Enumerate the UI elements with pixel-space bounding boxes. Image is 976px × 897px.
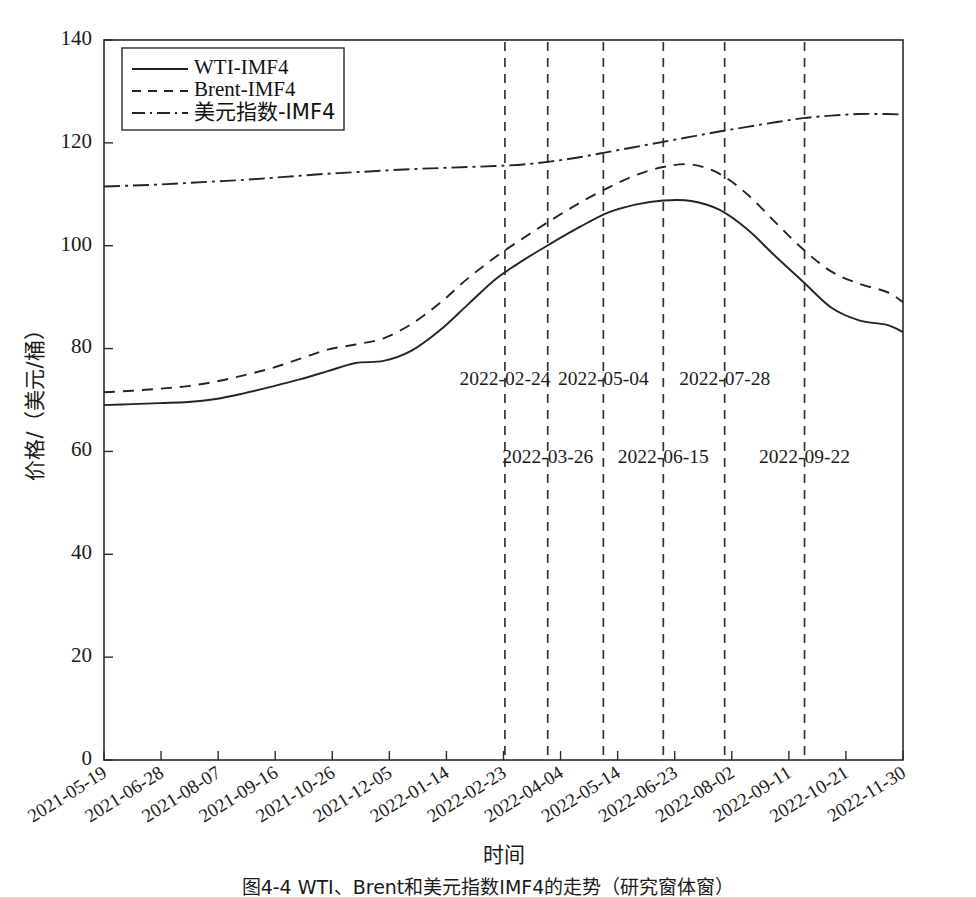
annotation-2022-07-28: 2022-07-28 [679, 368, 770, 389]
annotation-2022-05-04: 2022-05-04 [558, 368, 649, 389]
annotation-2022-02-24: 2022-02-24 [459, 368, 550, 389]
data-series-group [104, 114, 903, 405]
event-annotations: 2022-02-242022-03-262022-05-042022-06-15… [459, 368, 850, 467]
line-chart: 020406080100120140 2021-05-192021-06-282… [0, 0, 976, 897]
y-tick-label-100: 100 [61, 232, 93, 256]
chart-legend[interactable]: WTI-IMF4Brent-IMF4美元指数-IMF4 [122, 48, 344, 130]
legend-label-Brent-IMF4[interactable]: Brent-IMF4 [194, 77, 296, 101]
y-tick-label-80: 80 [71, 334, 92, 358]
plot-border [104, 40, 903, 760]
plot-frame [104, 40, 903, 760]
y-tick-label-140: 140 [61, 26, 93, 50]
y-tick-label-60: 60 [71, 437, 92, 461]
y-tick-label-20: 20 [71, 643, 92, 667]
legend-label-美元指数-IMF4[interactable]: 美元指数-IMF4 [194, 100, 335, 124]
y-tick-label-120: 120 [61, 129, 93, 153]
y-axis-label: 价格/（美元/桶） [23, 319, 47, 480]
x-axis-label: 时间 [483, 843, 525, 867]
legend-label-WTI-IMF4[interactable]: WTI-IMF4 [194, 55, 289, 79]
figure-container: 020406080100120140 2021-05-192021-06-282… [0, 0, 976, 897]
x-axis-ticks: 2021-05-192021-06-282021-08-072021-09-16… [24, 751, 909, 826]
series-line-Brent-IMF4 [104, 164, 903, 392]
y-axis-ticks: 020406080100120140 [61, 26, 114, 770]
annotation-2022-06-15: 2022-06-15 [618, 446, 709, 467]
annotation-2022-09-22: 2022-09-22 [759, 446, 850, 467]
event-vertical-lines [505, 42, 805, 760]
annotation-2022-03-26: 2022-03-26 [502, 446, 593, 467]
y-tick-label-40: 40 [71, 540, 92, 564]
figure-caption: 图4-4 WTI、Brent和美元指数IMF4的走势（研究窗体窗） [0, 872, 976, 897]
